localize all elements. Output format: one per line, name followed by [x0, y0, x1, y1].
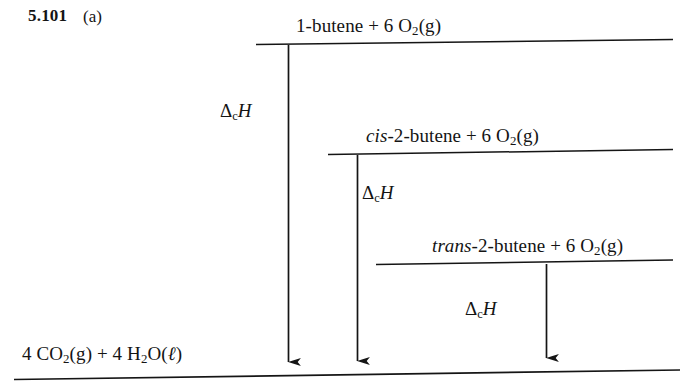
species-name-text: -2-butene — [472, 235, 546, 256]
oxygen-state-text: (g) — [516, 125, 538, 146]
liquid-state-symbol: ℓ — [168, 343, 176, 364]
co2-lead-text: 4 CO — [22, 343, 63, 364]
oxygen-term-text: + 6 O — [545, 235, 594, 256]
level-line-trans — [376, 260, 673, 265]
delta-symbol: Δ — [465, 298, 477, 319]
delta-symbol: Δ — [220, 100, 232, 121]
oxygen-state-text: (g) — [419, 15, 441, 36]
level-line-cis — [328, 150, 673, 155]
level-label-1-butene: 1-butene + 6 O2(g) — [296, 16, 441, 38]
diagram-canvas — [0, 0, 680, 390]
oxygen-term-text: + 6 O — [363, 15, 412, 36]
level-label-products: 4 CO2(g) + 4 H2O(ℓ) — [22, 344, 182, 366]
level-line-products — [14, 370, 680, 380]
enthalpy-symbol-h: H — [483, 298, 497, 319]
delta-symbol: Δ — [362, 182, 374, 203]
oxygen-state-text: (g) — [601, 235, 623, 256]
enthalpy-symbol-h: H — [380, 182, 394, 203]
oxygen-term-text: + 6 O — [461, 125, 510, 146]
co2-state-text: (g) — [70, 343, 92, 364]
h2o-rest-text: O( — [147, 343, 167, 364]
enthalpy-diagram-figure: 5.101 (a) 1-butene + 6 O2(g) cis-2-buten… — [0, 0, 680, 390]
plus-term-text: + 4 H — [92, 343, 141, 364]
problem-part: (a) — [83, 8, 102, 25]
stereo-prefix-trans: trans — [432, 235, 472, 256]
enthalpy-symbol-h: H — [238, 100, 252, 121]
h2o-close-paren: ) — [176, 343, 182, 364]
arrow-label-delta-c-h-cis: ΔcH — [362, 183, 394, 205]
arrow-label-delta-c-h-trans: ΔcH — [465, 299, 497, 321]
species-name-text: -2-butene — [387, 125, 461, 146]
level-line-1butene — [256, 40, 673, 45]
arrow-label-delta-c-h-1butene: ΔcH — [220, 101, 252, 123]
stereo-prefix-cis: cis — [366, 125, 387, 146]
level-label-trans-2-butene: trans-2-butene + 6 O2(g) — [432, 236, 623, 258]
level-label-cis-2-butene: cis-2-butene + 6 O2(g) — [366, 126, 539, 148]
problem-number: 5.101 — [28, 7, 67, 24]
species-name-text: 1-butene — [296, 15, 363, 36]
